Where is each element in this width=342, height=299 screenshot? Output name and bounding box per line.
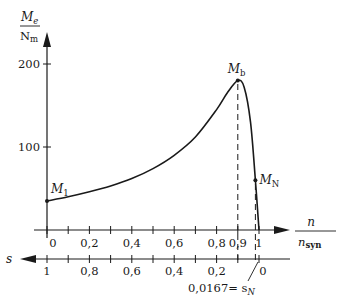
svg-text:0,0167= sN: 0,0167= sN	[188, 281, 255, 297]
svg-text:Me: Me	[20, 10, 38, 26]
svg-text:M1: M1	[50, 182, 69, 198]
torque-speed-chart: Me Nm 100200 n nsyn 00,20,40,60,80,91 s …	[0, 0, 342, 299]
svg-text:Mb: Mb	[227, 62, 246, 78]
svg-text:1: 1	[255, 236, 262, 250]
curve-points: M1MbMN	[45, 62, 280, 203]
slip-axis-label: s	[6, 252, 12, 266]
svg-text:0,2: 0,2	[80, 236, 98, 250]
svg-text:n: n	[307, 215, 315, 229]
svg-text:0,6: 0,6	[123, 264, 141, 278]
svg-text:nsyn: nsyn	[298, 235, 321, 250]
svg-text:0: 0	[49, 236, 56, 250]
svg-text:MN: MN	[258, 173, 279, 189]
svg-text:0,4: 0,4	[165, 264, 183, 278]
svg-text:0: 0	[259, 264, 266, 278]
guide-lines	[238, 81, 256, 260]
svg-text:100: 100	[18, 140, 40, 154]
y-ticks: 100200	[18, 57, 51, 154]
svg-text:0,8: 0,8	[80, 264, 98, 278]
y-axis-arrow-icon	[43, 32, 51, 47]
svg-text:200: 200	[18, 57, 40, 71]
svg-text:0,2: 0,2	[207, 264, 225, 278]
svg-text:Nm: Nm	[20, 29, 38, 44]
svg-text:1: 1	[43, 264, 50, 278]
x-axis-arrow-icon	[274, 226, 290, 234]
svg-text:0,8: 0,8	[207, 236, 225, 250]
svg-text:0,6: 0,6	[165, 236, 183, 250]
y-axis-label: Me Nm	[20, 10, 40, 44]
x-axis-label: n nsyn	[295, 215, 336, 250]
svg-text:0,4: 0,4	[123, 236, 141, 250]
torque-curve	[47, 80, 259, 230]
slip-axis-arrow-icon	[20, 255, 36, 263]
